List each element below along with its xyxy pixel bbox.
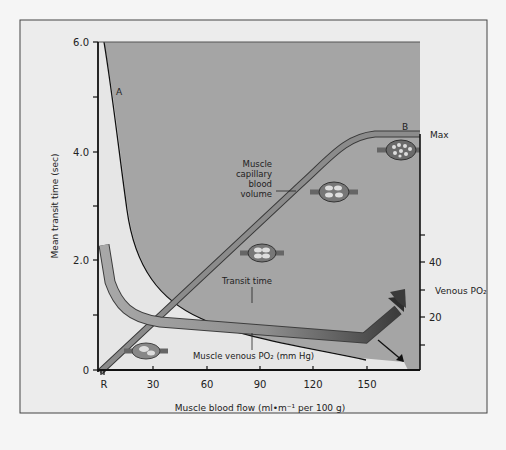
venous-po2-label: Muscle venous PO₂ (mm Hg) bbox=[193, 351, 314, 361]
point-a-label: A bbox=[116, 87, 123, 97]
right-axis-title: Venous PO₂ bbox=[435, 286, 487, 296]
y-tick-2: 2.0 bbox=[73, 255, 89, 266]
y-tick-6: 6.0 bbox=[73, 37, 89, 48]
x-tick-60: 60 bbox=[201, 379, 214, 390]
capillary-volume-label-3: blood bbox=[248, 179, 272, 189]
x-axis-title: Muscle blood flow (ml•m⁻¹ per 100 g) bbox=[175, 403, 345, 413]
capillary-volume-label-4: volume bbox=[241, 189, 273, 199]
max-label: Max bbox=[430, 130, 449, 140]
chart-figure: 6.0 4.0 2.0 0 R 30 60 90 120 150 40 20 M… bbox=[0, 0, 506, 450]
capillary-volume-label-2: capillary bbox=[236, 169, 272, 179]
x-tick-r: R bbox=[101, 379, 108, 390]
capillary-volume-label-1: Muscle bbox=[243, 159, 272, 169]
right-tick-40: 40 bbox=[429, 257, 442, 268]
y-tick-4: 4.0 bbox=[73, 147, 89, 158]
y-tick-0: 0 bbox=[83, 365, 89, 376]
right-tick-20: 20 bbox=[429, 312, 442, 323]
point-b-label: B bbox=[402, 122, 408, 132]
transit-time-label: Transit time bbox=[221, 276, 272, 286]
y-axis-title: Mean transit time (sec) bbox=[50, 154, 60, 259]
x-tick-30: 30 bbox=[147, 379, 160, 390]
x-tick-150: 150 bbox=[357, 379, 376, 390]
x-tick-90: 90 bbox=[254, 379, 267, 390]
x-tick-120: 120 bbox=[303, 379, 322, 390]
